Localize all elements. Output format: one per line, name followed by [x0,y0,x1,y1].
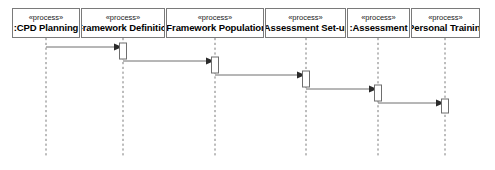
lifeline-header-framework-definition[interactable]: «process»:Framework Definition [81,8,165,38]
messages-layer [46,47,444,103]
participant-name-label: :Personal Training [411,22,480,33]
stereotype-label: «process» [198,13,233,22]
lifeline-header-framework-population[interactable]: «process»:Framework Population [166,8,264,38]
stereotype-label: «process» [29,13,64,22]
participant-name-label: :CPD Planning [14,22,79,33]
stereotype-label: «process» [106,13,141,22]
stereotype-label: «process» [288,13,323,22]
lifeline-header-cpd-planning[interactable]: «process»:CPD Planning [12,8,80,38]
lifeline-header-personal-training[interactable]: «process»:Personal Training [411,8,480,38]
activation-bar-framework-definition[interactable] [120,43,127,59]
activation-bar-assessment[interactable] [375,85,382,101]
stereotype-label: «process» [428,13,463,22]
participant-name-label: :Assessment Set-up [265,22,346,33]
lifeline-header-assessment-set-up[interactable]: «process»:Assessment Set-up [265,8,346,38]
stereotype-label: «process» [361,13,396,22]
activation-bar-framework-population[interactable] [212,57,219,73]
activation-bar-assessment-set-up[interactable] [303,71,310,87]
participant-name-label: :Framework Population [166,22,264,33]
lifelines-layer [46,38,445,158]
participant-name-label: :Framework Definition [81,22,165,33]
sequence-diagram-canvas: «process»:CPD Planning«process»:Framewor… [0,0,495,170]
lifeline-header-assessment[interactable]: «process»:Assessment [347,8,410,38]
activation-bar-personal-training[interactable] [442,99,449,113]
participant-name-label: :Assessment [349,22,407,33]
